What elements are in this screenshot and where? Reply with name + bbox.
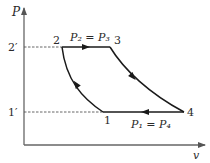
y-axis-label: P	[11, 5, 21, 19]
process-1-2	[62, 47, 103, 112]
axes	[24, 8, 205, 145]
x-axis-label: v	[193, 149, 200, 162]
point-label-3: 3	[114, 34, 121, 47]
point-label-4: 4	[187, 106, 194, 119]
arrow-down-icon	[128, 72, 138, 82]
arrow-left-icon	[141, 109, 149, 115]
point-label-2: 2	[53, 34, 60, 47]
tick-label-upper: 2′	[8, 41, 18, 54]
equation-bottom: P₁ = P₄	[130, 118, 171, 131]
cycle	[62, 47, 184, 112]
process-3-4	[110, 47, 184, 112]
tick-label-lower: 1′	[8, 106, 18, 119]
equation-top: P₂ = P₃	[69, 31, 110, 44]
arrow-right-icon	[82, 44, 90, 50]
point-label-1: 1	[104, 114, 111, 127]
pv-diagram: P v 2′ 1′ 2 3 1 4 P₂ = P₃ P₁ = P₄	[0, 0, 210, 163]
